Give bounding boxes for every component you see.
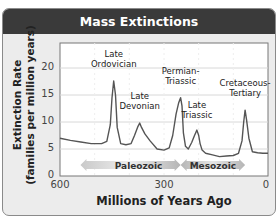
annotation-permian-triassic: Permian-Triassic <box>162 66 200 86</box>
svg-text:Late: Late <box>188 100 207 110</box>
svg-text:Ordovician: Ordovician <box>91 59 137 69</box>
svg-text:Tertiary: Tertiary <box>228 88 261 98</box>
svg-text:Late: Late <box>104 49 123 59</box>
svg-text:Cretaceous-: Cretaceous- <box>220 78 271 88</box>
svg-text:Triassic: Triassic <box>164 76 196 86</box>
era-band-mesozoic: Mesozoic <box>181 159 245 171</box>
svg-text:Triassic: Triassic <box>180 110 212 120</box>
svg-text:Permian-: Permian- <box>162 66 200 76</box>
plot-area: PaleozoicMesozoic LateOrdovicianLateDevo… <box>0 0 280 220</box>
svg-text:Paleozoic: Paleozoic <box>115 161 163 171</box>
svg-text:Late: Late <box>130 91 149 101</box>
svg-text:Mesozoic: Mesozoic <box>190 161 236 171</box>
svg-text:Devonian: Devonian <box>120 101 160 111</box>
